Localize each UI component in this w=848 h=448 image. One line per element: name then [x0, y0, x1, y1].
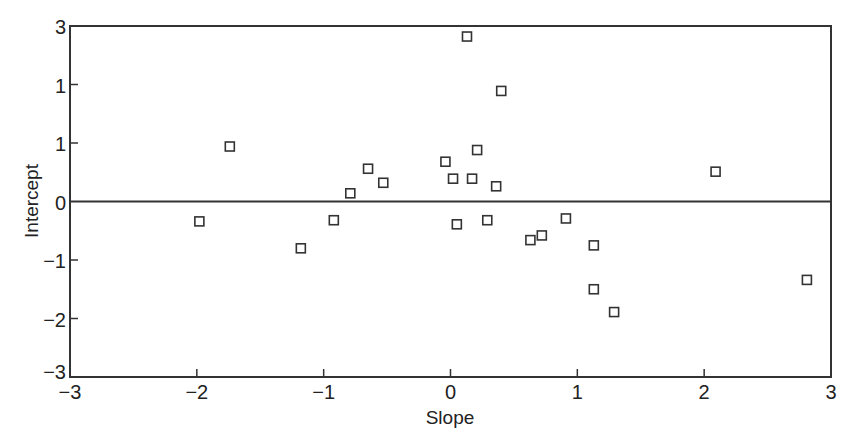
square-marker-icon — [225, 142, 234, 151]
square-marker-icon — [449, 174, 458, 183]
square-marker-icon — [526, 236, 535, 245]
square-marker-icon — [195, 217, 204, 226]
x-axis-title: Slope — [426, 407, 475, 428]
square-marker-icon — [462, 32, 471, 41]
square-marker-icon — [379, 178, 388, 187]
square-marker-icon — [497, 86, 506, 95]
square-marker-icon — [537, 231, 546, 240]
square-marker-icon — [802, 275, 811, 284]
y-tick-label: 3 — [55, 16, 66, 38]
square-marker-icon — [711, 167, 720, 176]
square-marker-icon — [329, 216, 338, 225]
y-tick-label: 1 — [55, 133, 66, 155]
x-tick-label: 1 — [572, 381, 583, 403]
square-marker-icon — [492, 182, 501, 191]
square-marker-icon — [589, 285, 598, 294]
y-axis-ticks: 3110−1−2−3 — [43, 16, 78, 383]
x-tick-label: −2 — [185, 381, 208, 403]
x-tick-label: −3 — [59, 381, 82, 403]
y-tick-label: 0 — [55, 192, 66, 214]
square-marker-icon — [452, 220, 461, 229]
y-tick-label: −2 — [43, 309, 66, 331]
square-marker-icon — [468, 174, 477, 183]
square-marker-icon — [561, 214, 570, 223]
square-marker-icon — [589, 241, 598, 250]
square-marker-icon — [296, 244, 305, 253]
scatter-chart: −3−2−10123 3110−1−2−3 Slope Intercept — [0, 0, 848, 448]
x-tick-label: −1 — [312, 381, 335, 403]
x-tick-label: 2 — [699, 381, 710, 403]
square-marker-icon — [346, 189, 355, 198]
square-marker-icon — [364, 164, 373, 173]
x-axis-ticks: −3−2−10123 — [59, 369, 837, 403]
y-tick-label: −1 — [43, 250, 66, 272]
x-tick-label: 3 — [825, 381, 836, 403]
y-tick-label: 1 — [55, 75, 66, 97]
y-axis-title: Intercept — [21, 163, 42, 238]
data-points — [195, 32, 812, 317]
square-marker-icon — [441, 157, 450, 166]
x-tick-label: 0 — [445, 381, 456, 403]
square-marker-icon — [610, 308, 619, 317]
y-tick-label: −3 — [43, 361, 66, 383]
square-marker-icon — [483, 216, 492, 225]
square-marker-icon — [473, 146, 482, 155]
